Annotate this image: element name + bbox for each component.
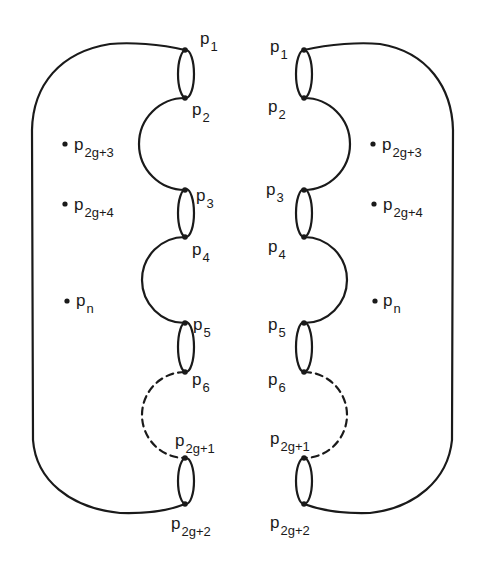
left-interior-point-node [62,201,67,206]
right-ellipse-p1-p2 [296,50,312,98]
right-boundary-point-label: p2 [268,97,286,122]
left-boundary-point-node [182,234,188,240]
left-boundary-point-label: p1 [200,29,218,54]
left-boundary-point-label: p5 [193,315,211,340]
right-interior-point-node [371,201,376,206]
right-interior-point-node [372,298,377,303]
left-interior-point-node [62,141,67,146]
right-boundary-point-node [301,369,307,375]
left-interior-point-label: p2g+4 [74,195,114,220]
left-boundary-point-label: p6 [192,370,210,395]
left-ellipse-p1-p2 [178,50,194,98]
right-boundary-point-node [301,95,307,101]
left-boundary-point-node [182,501,188,507]
right-boundary-point-node [301,187,307,193]
right-boundary-point-node [301,455,307,461]
points-layer: p1p2p3p4p5p6p2g+1p2g+2p2g+3p2g+4pnp1p2p3… [62,29,422,539]
right-boundary-point-label: p1 [270,37,288,62]
right-outer-boundary [304,43,453,513]
right-interior-point-label: pn [383,291,401,316]
left-ellipse-p2g1-p2g2 [178,458,194,504]
left-arc-p2-p3 [139,98,185,190]
right-boundary-point-node [301,234,307,240]
left-outer-boundary [32,43,185,513]
right-arc-p6-p2g1-dashed [304,372,347,458]
left-interior-point-label: p2g+3 [74,135,114,160]
right-surface [296,43,453,513]
right-arc-p4-p5 [304,237,347,323]
right-boundary-point-node [301,501,307,507]
left-boundary-point-label: p3 [196,186,214,211]
left-boundary-point-node [182,187,188,193]
right-ellipse-p5-p6 [296,322,312,372]
right-ellipse-p3-p4 [296,189,312,237]
left-ellipse-p3-p4 [178,189,194,237]
right-ellipse-p2g1-p2g2 [296,458,312,504]
left-boundary-point-node [182,47,188,53]
right-boundary-point-label: p2g+2 [270,513,310,538]
left-boundary-point-label: p2g+2 [171,514,211,539]
right-boundary-point-label: p6 [268,370,286,395]
left-boundary-point-node [182,95,188,101]
right-boundary-point-label: p4 [268,237,286,262]
diagram-canvas: p1p2p3p4p5p6p2g+1p2g+2p2g+3p2g+4pnp1p2p3… [0,0,486,574]
left-arc-p4-p5 [142,237,185,323]
left-boundary-point-label: p2g+1 [175,431,215,456]
left-surface [32,43,194,513]
right-boundary-point-node [301,47,307,53]
right-boundary-point-label: p5 [268,315,286,340]
left-interior-point-label: pn [76,291,94,316]
right-boundary-point-label: p2g+1 [270,429,310,454]
left-boundary-point-node [182,369,188,375]
left-boundary-point-node [182,320,188,326]
left-boundary-point-label: p2 [192,100,210,125]
right-boundary-point-node [301,320,307,326]
left-ellipse-p5-p6 [178,322,194,372]
left-boundary-point-label: p4 [192,240,210,265]
right-interior-point-node [370,141,375,146]
right-interior-point-label: p2g+3 [382,135,422,160]
left-interior-point-node [64,298,69,303]
right-arc-p2-p3 [304,98,350,190]
right-interior-point-label: p2g+4 [383,195,423,220]
left-boundary-point-node [182,455,188,461]
right-boundary-point-label: p3 [266,180,284,205]
